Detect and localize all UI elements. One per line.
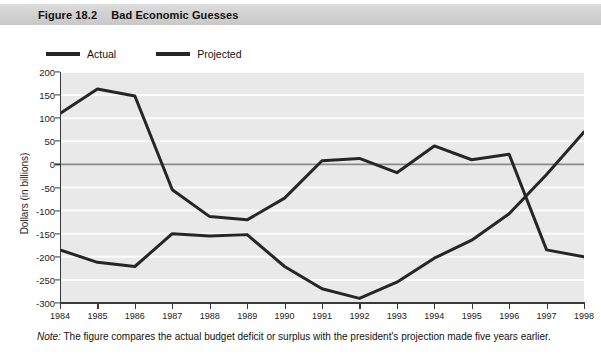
y-tick-label: 150 [39,90,55,101]
legend-label-actual: Actual [87,48,116,60]
figure-title-bar: Figure 18.2 Bad Economic Guesses [0,4,601,25]
x-tick-label: 1985 [87,311,107,321]
y-tick-label: 200 [39,67,55,78]
y-tick-label: -250 [36,274,55,285]
x-tick-mark [247,303,248,309]
x-tick-mark [584,303,585,309]
legend-label-projected: Projected [197,48,241,60]
x-tick-label: 1992 [349,311,369,321]
note-text: The figure compares the actual budget de… [61,331,551,342]
y-tick-label: -50 [41,182,55,193]
x-tick-mark [135,303,136,309]
legend-swatch-projected [156,52,190,56]
y-tick-label: 100 [39,113,55,124]
y-tick-mark [55,279,60,280]
y-tick-label: 50 [44,136,55,147]
chart-legend: Actual Projected [46,46,282,62]
y-tick-label: -100 [36,205,55,216]
x-tick-mark [359,303,360,309]
plot-lines [60,72,584,303]
x-tick-label: 1997 [537,311,557,321]
y-tick-mark [55,187,60,188]
y-tick-mark [55,233,60,234]
figure-title: Bad Economic Guesses [111,9,238,21]
x-tick-mark [97,303,98,309]
x-tick-mark [322,303,323,309]
x-tick-label: 1993 [387,311,407,321]
x-tick-label: 1986 [125,311,145,321]
y-tick-label: -200 [36,251,55,262]
figure-note: Note: The figure compares the actual bud… [37,330,577,344]
x-tick-label: 1988 [200,311,220,321]
x-tick-label: 1998 [574,311,594,321]
x-tick-label: 1996 [499,311,519,321]
y-tick-mark [55,118,60,119]
y-tick-mark [55,164,60,165]
legend-item-actual: Actual [46,48,116,60]
y-tick-mark [55,210,60,211]
y-tick-mark [55,141,60,142]
x-tick-mark [509,303,510,309]
y-tick-label: -150 [36,228,55,239]
note-prefix: Note: [37,331,61,342]
x-tick-label: 1984 [50,311,70,321]
x-tick-mark [547,303,548,309]
x-tick-mark [172,303,173,309]
y-tick-mark [55,71,60,72]
y-tick-mark [55,95,60,96]
series-line-projected [60,89,584,257]
y-tick-mark [55,256,60,257]
x-tick-label: 1990 [275,311,295,321]
x-tick-mark [397,303,398,309]
x-tick-mark [472,303,473,309]
y-axis-labels: 200150100500-50-100-150-200-250-300 [0,0,55,358]
x-tick-label: 1991 [312,311,332,321]
y-tick-label: -300 [36,298,55,309]
plot-area [60,72,584,303]
x-tick-mark [434,303,435,309]
x-tick-label: 1989 [237,311,257,321]
x-tick-mark [285,303,286,309]
x-tick-mark [210,303,211,309]
x-tick-label: 1995 [462,311,482,321]
x-tick-label: 1987 [162,311,182,321]
legend-item-projected: Projected [156,48,241,60]
series-line-actual [60,132,584,298]
x-tick-label: 1994 [424,311,444,321]
x-tick-mark [60,303,61,309]
